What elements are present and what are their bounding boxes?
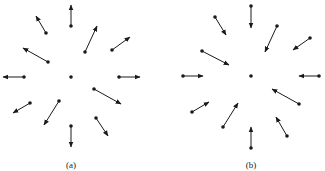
vector-arrow	[92, 87, 121, 104]
vector-origin-dot	[317, 74, 321, 78]
vector-origin-dot	[249, 4, 253, 8]
vector-origin-dot	[69, 124, 73, 128]
vector-arrow	[83, 26, 97, 54]
vector-origin-dot	[110, 48, 114, 52]
vector-origin-dot	[92, 87, 96, 91]
vector-arrow	[265, 24, 279, 52]
vector-origin-dot	[46, 60, 50, 64]
vector-origin-dot	[44, 31, 48, 35]
vector-arrow	[36, 16, 48, 35]
vector-origin-dot	[181, 74, 185, 78]
vector-origin-dot	[83, 50, 87, 54]
vector-arrow	[44, 99, 61, 125]
vector-arrow	[272, 89, 301, 106]
vector-arrow	[200, 49, 229, 65]
center-point	[69, 75, 73, 79]
vector-arrow	[249, 127, 253, 150]
vector-arrow	[299, 74, 321, 78]
vector-arrow	[13, 101, 32, 113]
vector-arrow	[181, 74, 203, 78]
vector-origin-dot	[221, 125, 225, 129]
vector-origin-dot	[275, 24, 279, 28]
vector-origin-dot	[28, 101, 32, 105]
vector-arrow	[69, 5, 73, 28]
vector-arrow	[110, 37, 130, 52]
vector-arrow	[276, 117, 289, 138]
vector-arrow	[117, 75, 140, 79]
vector-origin-dot	[200, 49, 204, 53]
vector-arrow	[190, 102, 209, 114]
panel-b-inward-field	[181, 4, 321, 150]
vector-origin-dot	[117, 75, 121, 79]
vector-origin-dot	[94, 116, 98, 120]
panel-a-caption: (a)	[66, 160, 76, 170]
vector-origin-dot	[249, 146, 253, 150]
vector-origin-dot	[297, 102, 301, 106]
panel-b-caption: (b)	[246, 160, 257, 170]
center-point	[249, 74, 253, 78]
vector-origin-dot	[22, 75, 26, 79]
vector-origin-dot	[57, 99, 61, 103]
vector-origin-dot	[285, 134, 289, 138]
vector-field-figure: (a) (b)	[0, 0, 325, 171]
vector-origin-dot	[308, 36, 312, 40]
vector-arrow	[213, 15, 226, 35]
vector-arrow	[94, 116, 108, 136]
vector-origin-dot	[190, 110, 194, 114]
vector-arrow	[221, 103, 238, 129]
vector-arrow	[249, 4, 253, 28]
vector-arrow	[293, 36, 312, 50]
vector-arrow	[69, 124, 73, 147]
panel-a-outward-field	[3, 5, 140, 147]
vector-arrow	[3, 75, 26, 79]
vector-arrow	[23, 48, 50, 64]
vector-origin-dot	[213, 15, 217, 19]
vector-origin-dot	[69, 24, 73, 28]
